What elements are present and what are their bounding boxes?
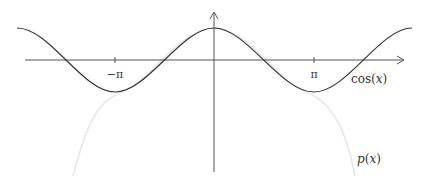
plot-canvas: −π π cos(x) p(x) <box>0 0 427 184</box>
p-label: p(x) <box>357 152 381 166</box>
cos-label: cos(x) <box>351 72 387 86</box>
tick-label-pi: π <box>310 68 317 81</box>
tick-label-neg-pi: −π <box>107 68 123 81</box>
